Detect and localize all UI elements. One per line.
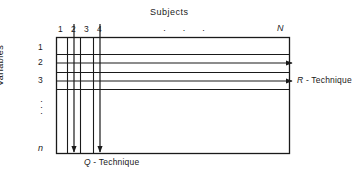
q-technique-mark: Q <box>84 157 91 167</box>
column-header-1: 1 <box>58 25 63 34</box>
r-technique-label: R - Technique <box>297 76 352 85</box>
q-technique-label: Q - Technique <box>84 158 139 167</box>
column-ellipsis: · · · <box>163 26 212 35</box>
q-technique-text: - Technique <box>91 157 140 167</box>
row-ellipsis: · · · <box>40 98 43 116</box>
r-technique-text: - Technique <box>303 75 352 85</box>
row-header-2: 2 <box>38 58 43 67</box>
data-matrix-figure: Subjects Variables 1 2 3 4 · · · N 1 2 3… <box>0 0 362 175</box>
row-header-3: 3 <box>38 76 43 85</box>
subjects-title: Subjects <box>150 8 189 17</box>
row-header-1: 1 <box>38 43 43 52</box>
row-header-last: n <box>38 144 43 153</box>
column-header-4: 4 <box>97 25 102 34</box>
column-header-2: 2 <box>71 25 76 34</box>
column-header-last: N <box>277 24 284 33</box>
variables-axis-label: Variables <box>0 45 5 86</box>
row-ellipsis-dot-3: · <box>40 110 43 116</box>
column-header-3: 3 <box>84 25 89 34</box>
